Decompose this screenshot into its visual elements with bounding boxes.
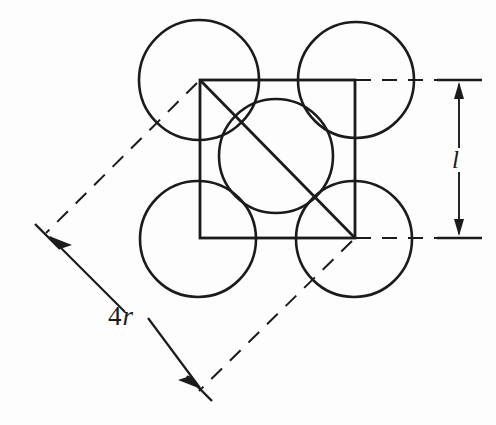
dimension-4r-arrowhead-lower xyxy=(178,376,201,389)
dimension-l xyxy=(437,80,482,238)
unit-cell-packing-figure: 4r l xyxy=(0,0,496,425)
dashed-extension-lower-right xyxy=(199,241,352,391)
dimension-4r-label-number: 4 xyxy=(108,301,122,331)
dimension-4r-tick-upper xyxy=(35,224,60,249)
dimension-4r-label: 4r xyxy=(108,301,134,331)
dashed-construction-lines xyxy=(46,80,474,391)
dimension-l-arrowhead-top xyxy=(454,82,464,99)
dashed-extension-upper-left xyxy=(46,83,197,233)
dimension-4r-shaft-lower xyxy=(148,318,200,388)
dimension-l-label: l xyxy=(452,146,459,173)
dimension-l-arrowhead-bottom xyxy=(454,219,464,236)
dimension-4r-label-symbol: r xyxy=(123,301,134,331)
figure-canvas: 4r l xyxy=(0,0,496,425)
